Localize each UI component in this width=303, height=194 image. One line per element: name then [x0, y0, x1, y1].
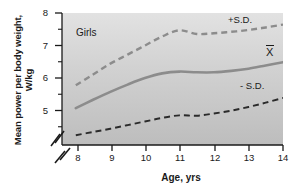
- chart-figure: Mean power per body weight, W/kg 8 7 6 5…: [0, 0, 303, 194]
- x-tick-10: 10: [134, 152, 158, 163]
- x-tick-14: 14: [271, 152, 295, 163]
- x-tick-8: 8: [66, 152, 90, 163]
- x-axis-label: Age, yrs: [78, 172, 284, 183]
- x-tick-9: 9: [100, 152, 124, 163]
- y-axis-tick-labels: 8 7 6 5: [28, 0, 48, 194]
- x-tick-11: 11: [168, 152, 192, 163]
- y-tick-8: 8: [32, 7, 48, 18]
- x-tick-12: 12: [203, 152, 227, 163]
- series-label-plus-sd: +S.D.: [228, 14, 252, 25]
- series-line-plus-sd: [76, 25, 283, 86]
- series-line-minus-sd: [76, 98, 283, 135]
- group-label-girls: Girls: [76, 27, 97, 38]
- series-label-mean: X: [266, 45, 274, 58]
- overbar-decoration: [266, 45, 274, 46]
- series-label-minus-sd: - S.D.: [240, 80, 264, 91]
- y-tick-5: 5: [32, 105, 48, 116]
- y-tick-7: 7: [32, 40, 48, 51]
- x-tick-13: 13: [237, 152, 261, 163]
- y-tick-6: 6: [32, 72, 48, 83]
